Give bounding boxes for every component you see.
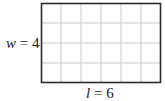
- width-value: 4: [32, 35, 40, 51]
- length-label: l = 6: [86, 86, 114, 101]
- length-value: 6: [106, 85, 114, 101]
- grid-lines: [41, 3, 161, 83]
- width-variable: w: [6, 35, 16, 51]
- width-equals: =: [16, 35, 32, 51]
- width-label: w = 4: [6, 36, 39, 51]
- rectangle-area-diagram: w = 4 l = 6: [0, 0, 165, 101]
- length-equals: =: [90, 85, 106, 101]
